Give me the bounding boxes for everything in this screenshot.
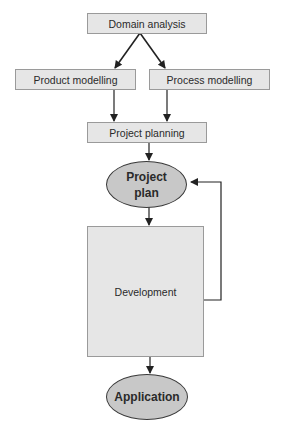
- flow-diagram: Domain analysis Product modelling Proces…: [0, 0, 286, 438]
- node-application-label: Application: [114, 389, 179, 405]
- node-process-modelling-label: Process modelling: [167, 74, 253, 86]
- edge-domain-to-product: [115, 33, 140, 68]
- node-domain-analysis-label: Domain analysis: [108, 18, 185, 30]
- node-development-label: Development: [115, 286, 177, 298]
- node-project-planning-label: Project planning: [109, 127, 184, 139]
- edge-domain-to-process: [140, 33, 165, 68]
- node-product-modelling-label: Product modelling: [33, 74, 117, 86]
- edges-layer: [0, 0, 286, 438]
- node-product-modelling: Product modelling: [15, 69, 136, 90]
- node-domain-analysis: Domain analysis: [87, 13, 207, 34]
- node-application: Application: [106, 374, 188, 420]
- node-development: Development: [87, 226, 204, 357]
- node-project-plan-label-line1: Project: [126, 169, 167, 185]
- node-project-plan: Project plan: [106, 161, 187, 208]
- node-process-modelling: Process modelling: [149, 69, 270, 90]
- node-project-planning: Project planning: [87, 122, 207, 143]
- node-project-plan-label-line2: plan: [134, 185, 159, 201]
